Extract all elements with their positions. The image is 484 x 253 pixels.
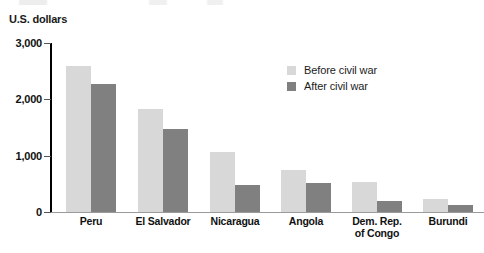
legend-item-after-civil-war: After civil war	[287, 78, 377, 94]
x-axis-label: Burundi	[401, 216, 484, 228]
legend-label-before: Before civil war	[304, 64, 377, 76]
y-tick-mark	[44, 99, 51, 100]
bar-after	[448, 205, 473, 212]
legend-swatch-icon-after	[287, 82, 296, 91]
bar-after	[377, 201, 402, 212]
y-axis-title: U.S. dollars	[9, 13, 67, 25]
x-axis-baseline	[50, 212, 484, 213]
bar-after	[235, 185, 260, 212]
bar-before	[66, 66, 91, 212]
bar-group	[138, 43, 188, 212]
legend-swatch-icon-before	[287, 66, 296, 75]
bar-before	[138, 109, 163, 212]
bar-chart-figure: U.S. dollars 01,0002,0003,000 PeruEl Sal…	[0, 0, 484, 253]
chart-legend: Before civil war After civil war	[287, 62, 377, 94]
bar-after	[91, 84, 116, 212]
bar-after	[306, 183, 331, 212]
y-tick-mark	[44, 212, 51, 213]
y-tick-label: 0	[36, 206, 42, 218]
y-tick-label: 2,000	[15, 93, 42, 105]
bar-before	[281, 170, 306, 212]
legend-item-before-civil-war: Before civil war	[287, 62, 377, 78]
y-tick-mark	[44, 156, 51, 157]
bar-group	[66, 43, 116, 212]
bar-group	[210, 43, 260, 212]
legend-label-after: After civil war	[304, 80, 368, 92]
y-tick-label: 3,000	[15, 37, 42, 49]
bar-before	[352, 182, 377, 212]
plot-area	[52, 43, 484, 212]
scan-artifact-strip	[0, 0, 484, 5]
bar-group	[423, 43, 473, 212]
bar-before	[423, 199, 448, 212]
y-tick-mark	[44, 43, 51, 44]
bar-after	[163, 129, 188, 212]
y-tick-label: 1,000	[15, 150, 42, 162]
bar-before	[210, 152, 235, 212]
